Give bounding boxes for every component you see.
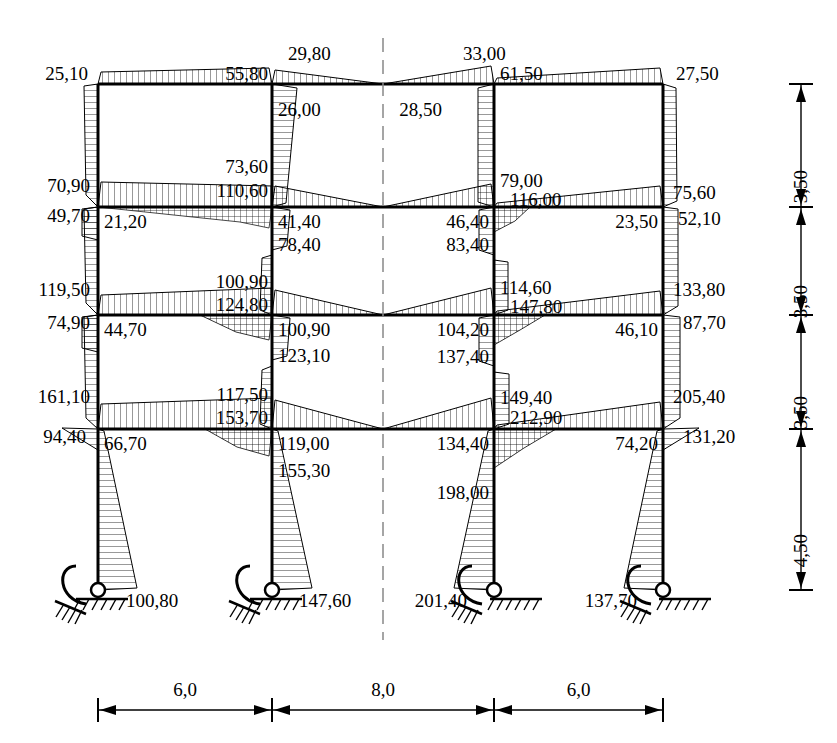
moment-label-m-205-40: 205,40 [673,387,725,406]
moment-label-m-41-40: 41,40 [278,212,321,231]
moment-label-m-49-70: 49,70 [47,206,90,225]
moment-label-m-74-90: 74,90 [47,313,90,332]
moment-label-m-26-00: 26,00 [278,100,321,119]
moment-label-m-25-10: 25,10 [45,64,88,83]
moment-label-m-116-00: 116,00 [510,190,562,209]
moment-label-m-55-80: 55,80 [225,64,268,83]
moment-label-m-134-40: 134,40 [437,434,489,453]
moment-label-m-52-10: 52,10 [678,209,721,228]
moment-fill-areas [62,66,699,590]
moment-label-m-78-40: 78,40 [278,235,321,254]
moment-label-m-153-70: 153,70 [216,408,268,427]
dim-storey-3: 3,50 [790,285,812,318]
horizontal-dimension-line [98,698,663,722]
dim-storey-4: 3,50 [790,170,812,203]
moment-label-m-70-90: 70,90 [47,176,90,195]
moment-label-m-79-00: 79,00 [500,171,543,190]
moment-label-m-201-40: 201,40 [415,591,467,610]
moment-label-m-73-60: 73,60 [225,157,268,176]
moment-label-m-94-40: 94,40 [43,427,86,446]
moment-label-m-23-50: 23,50 [615,212,658,231]
dim-span-1: 6,0 [173,679,197,701]
moment-label-m-27-50: 27,50 [676,64,719,83]
moment-label-m-28-50: 28,50 [399,100,442,119]
moment-label-m-74-20: 74,20 [615,434,658,453]
moment-label-m-100-90a: 100,90 [216,272,268,291]
bending-moment-diagram: 25,1055,8029,8026,0033,0061,5028,5027,50… [0,0,837,743]
moment-label-m-61-50: 61,50 [500,64,543,83]
moment-label-m-100-80: 100,80 [126,591,178,610]
moment-label-m-119-00: 119,00 [278,434,330,453]
moment-label-m-149-40: 149,40 [500,388,552,407]
moment-label-m-114-60: 114,60 [500,278,552,297]
moment-label-m-87-70: 87,70 [683,313,726,332]
dim-span-3: 6,0 [567,679,591,701]
moment-label-m-29-80: 29,80 [288,44,331,63]
moment-label-m-83-40: 83,40 [446,235,489,254]
moment-label-m-137-70: 137,70 [585,591,637,610]
moment-label-m-117-50: 117,50 [216,385,268,404]
moment-label-m-100-90b: 100,90 [278,320,330,339]
moment-label-m-75-60: 75,60 [673,183,716,202]
moment-label-m-133-80: 133,80 [673,280,725,299]
dim-storey-1: 4,50 [790,534,812,567]
moment-label-m-44-70: 44,70 [104,320,147,339]
moment-label-m-147-60: 147,60 [299,591,351,610]
moment-label-m-46-10: 46,10 [615,320,658,339]
moment-label-m-21-20: 21,20 [104,212,147,231]
moment-label-m-155-30: 155,30 [278,461,330,480]
moment-label-m-124-80: 124,80 [216,295,268,314]
moment-label-m-66-70: 66,70 [104,434,147,453]
moment-label-m-147-80: 147,80 [510,297,562,316]
moment-label-m-33-00: 33,00 [463,44,506,63]
dim-storey-2: 3,50 [790,396,812,429]
moment-label-m-119-50: 119,50 [38,280,90,299]
dim-span-2: 8,0 [371,679,395,701]
moment-label-m-137-40: 137,40 [437,347,489,366]
moment-label-m-161-10: 161,10 [38,387,90,406]
moment-label-m-212-90: 212,90 [510,408,562,427]
moment-label-m-198-00: 198,00 [437,483,489,502]
moment-label-m-110-60: 110,60 [216,181,268,200]
moment-label-m-123-10: 123,10 [278,346,330,365]
moment-label-m-46-40: 46,40 [446,212,489,231]
moment-label-m-131-20: 131,20 [683,427,735,446]
frame-skeleton [98,84,663,590]
vertical-dimension-line [789,84,813,590]
moment-label-m-104-20: 104,20 [437,320,489,339]
